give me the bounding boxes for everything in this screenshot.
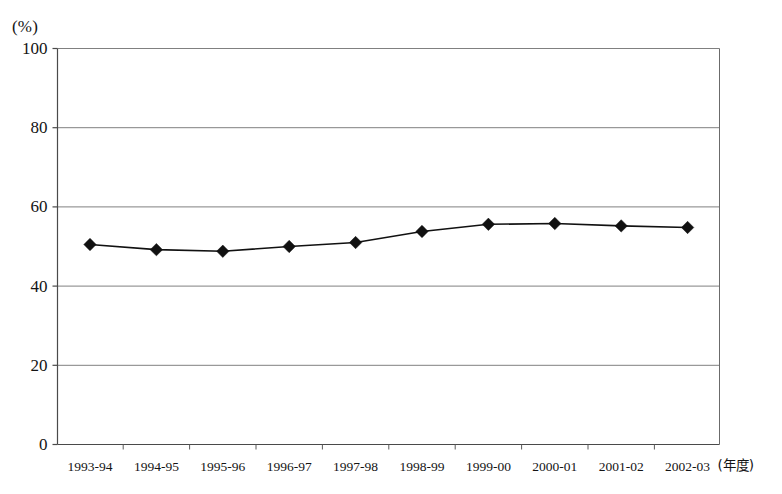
data-point-marker [150, 243, 162, 255]
data-point-marker [681, 221, 693, 233]
x-axis-unit-label: (年度) [718, 459, 755, 473]
x-axis-tick-label: 1995-96 [191, 460, 255, 474]
x-axis-tick-label: 1993-94 [58, 460, 122, 474]
y-axis-tick-label: 80 [2, 119, 48, 136]
x-axis-tick-label: 1996-97 [257, 460, 321, 474]
x-axis-tick-label: 1999-00 [456, 460, 520, 474]
data-point-marker [84, 238, 96, 250]
data-point-marker [217, 245, 229, 257]
data-point-marker [283, 240, 295, 252]
data-line [90, 224, 688, 252]
chart-container: (%) 020406080100 1993-941994-951995-9619… [0, 0, 782, 494]
data-point-marker [615, 220, 627, 232]
gridlines-group [58, 49, 720, 366]
x-axis-ticks-group [123, 445, 654, 450]
y-axis-tick-label: 40 [2, 278, 48, 295]
data-point-marker [482, 218, 494, 230]
y-axis-tick-label: 60 [2, 198, 48, 215]
y-axis-tick-label: 20 [2, 357, 48, 374]
plot-frame [53, 49, 720, 445]
x-axis-tick-label: 2001-02 [589, 460, 653, 474]
x-axis-tick-label: 1998-99 [390, 460, 454, 474]
y-axis-tick-label: 0 [2, 436, 48, 453]
x-axis-tick-label: 2002-03 [656, 460, 720, 474]
y-axis-tick-label: 100 [2, 40, 48, 57]
x-axis-tick-label: 1997-98 [324, 460, 388, 474]
data-point-marker [349, 236, 361, 248]
x-axis-tick-label: 1994-95 [124, 460, 188, 474]
line-chart-plot [0, 0, 782, 494]
data-point-marker [549, 217, 561, 229]
data-point-marker [416, 225, 428, 237]
x-axis-tick-label: 2000-01 [523, 460, 587, 474]
